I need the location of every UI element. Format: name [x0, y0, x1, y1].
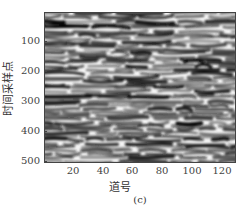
y-axis-label-wrap: 时间采样点: [0, 40, 14, 136]
seismic-image: [45, 13, 236, 163]
x-tick-40: 40: [88, 166, 118, 176]
y-tick-mark: [44, 101, 47, 102]
x-tick-100: 100: [177, 166, 207, 176]
y-tick-500: 500: [14, 156, 40, 166]
x-tick-60: 60: [117, 166, 147, 176]
plot-area: [44, 12, 236, 163]
x-tick-120: 120: [207, 166, 237, 176]
y-tick-mark: [44, 71, 47, 72]
x-tick-80: 80: [147, 166, 177, 176]
y-tick-200: 200: [14, 66, 40, 76]
y-tick-mark: [44, 41, 47, 42]
x-tick-20: 20: [58, 166, 88, 176]
y-tick-mark: [44, 131, 47, 132]
y-axis-label: 时间采样点: [0, 61, 15, 116]
y-tick-mark: [44, 161, 47, 162]
figure-caption: (c): [133, 194, 146, 205]
y-tick-300: 300: [14, 96, 40, 106]
x-axis-label: 道号: [109, 178, 131, 194]
y-tick-400: 400: [14, 126, 40, 136]
seismic-figure: 时间采样点 100 200 300 400 500 20 40 60 80 10…: [0, 0, 244, 214]
y-tick-100: 100: [14, 36, 40, 46]
